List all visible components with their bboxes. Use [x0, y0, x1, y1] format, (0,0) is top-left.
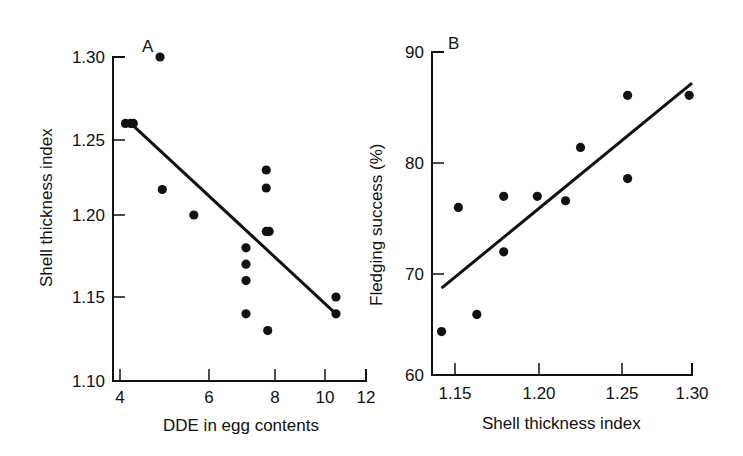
data-point [437, 327, 446, 336]
y-tick-label: 1.15 [72, 288, 105, 307]
data-point [561, 196, 570, 205]
data-points-b [437, 91, 694, 336]
y-tick-label: 90 [405, 43, 424, 62]
data-point [263, 326, 272, 335]
data-point [499, 192, 508, 201]
data-point [241, 309, 250, 318]
data-point [189, 210, 198, 219]
data-point [533, 192, 542, 201]
data-point [331, 292, 340, 301]
axis-frame [113, 57, 366, 381]
x-ticks-b: 1.151.201.251.30 [438, 363, 708, 403]
data-point [155, 52, 164, 61]
regression-line [131, 123, 336, 313]
data-point [623, 91, 632, 100]
data-point [265, 227, 274, 236]
y-tick-label: 1.20 [72, 206, 105, 225]
x-axis-title-b: Shell thickness index [482, 414, 641, 433]
regression-line [442, 83, 692, 288]
data-point [241, 276, 250, 285]
panel-label-b: B [448, 34, 459, 53]
data-point [129, 119, 138, 128]
data-point [241, 260, 250, 269]
y-tick-label: 80 [405, 154, 424, 173]
data-point [623, 174, 632, 183]
data-point [685, 91, 694, 100]
data-point [241, 243, 250, 252]
x-tick-label: 1.30 [675, 384, 708, 403]
y-ticks-a: 1.101.151.201.251.30 [72, 48, 125, 391]
x-tick-label: 1.15 [438, 384, 471, 403]
data-point [158, 185, 167, 194]
data-point [472, 310, 481, 319]
axes-a [113, 57, 366, 381]
y-tick-label: 60 [405, 366, 424, 385]
x-axis-title-a: DDE in egg contents [163, 416, 319, 435]
chart-panel-a: A 1.101.151.201.251.30 4681012 DDE in eg… [37, 37, 375, 435]
x-ticks-a: 4681012 [115, 369, 375, 407]
y-tick-label: 1.10 [72, 372, 105, 391]
x-tick-label: 12 [357, 388, 376, 407]
y-axis-title-a: Shell thickness index [37, 128, 56, 287]
data-point [262, 183, 271, 192]
data-points-a [121, 52, 341, 335]
regression-line-a [131, 123, 336, 313]
y-tick-label: 70 [405, 265, 424, 284]
regression-line-b [442, 83, 692, 288]
x-tick-label: 4 [115, 388, 124, 407]
y-tick-label: 1.25 [72, 131, 105, 150]
x-tick-label: 6 [204, 388, 213, 407]
data-point [454, 203, 463, 212]
x-tick-label: 8 [270, 388, 279, 407]
data-point [331, 309, 340, 318]
data-point [262, 165, 271, 174]
axes-b [432, 52, 692, 375]
figure: A 1.101.151.201.251.30 4681012 DDE in eg… [0, 0, 743, 456]
data-point [576, 143, 585, 152]
x-tick-label: 10 [316, 388, 335, 407]
data-point [499, 247, 508, 256]
chart-panel-b: B 60708090 1.151.201.251.30 Shell thickn… [367, 34, 709, 433]
panel-label-a: A [142, 37, 154, 56]
axis-frame [432, 52, 692, 375]
x-tick-label: 1.25 [605, 384, 638, 403]
x-tick-label: 1.20 [522, 384, 555, 403]
y-axis-title-b: Fledging success (%) [367, 143, 386, 306]
y-tick-label: 1.30 [72, 48, 105, 67]
